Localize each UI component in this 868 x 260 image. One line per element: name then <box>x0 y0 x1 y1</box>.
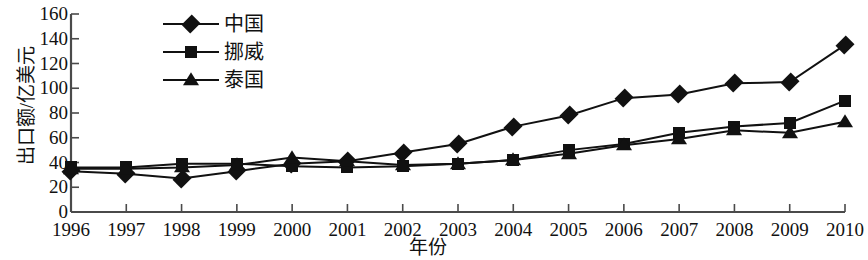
data-point-triangle <box>505 152 521 165</box>
legend-item: 挪威 <box>163 38 313 66</box>
data-point-triangle <box>671 131 687 144</box>
legend-label: 挪威 <box>219 42 264 62</box>
data-point-triangle <box>726 123 742 136</box>
data-point-triangle <box>616 137 632 150</box>
legend-label: 泰国 <box>219 70 264 90</box>
data-point-triangle <box>395 157 411 170</box>
data-point-triangle <box>118 161 134 174</box>
data-point-square <box>839 95 851 107</box>
legend-marker-square-icon <box>185 46 197 58</box>
legend-label: 中国 <box>219 14 264 34</box>
data-point-triangle <box>284 150 300 163</box>
legend-swatch-diamond-icon <box>163 14 219 34</box>
data-point-triangle <box>837 114 853 127</box>
x-axis-title: 年份 <box>0 238 856 258</box>
data-point-triangle <box>782 125 798 138</box>
data-point-triangle <box>174 160 190 173</box>
legend-swatch-square-icon <box>163 42 219 62</box>
legend: 中国挪威泰国 <box>163 10 313 94</box>
legend-item: 中国 <box>163 10 313 38</box>
data-point-triangle <box>229 157 245 170</box>
data-point-triangle <box>561 146 577 159</box>
data-point-triangle <box>339 153 355 166</box>
legend-marker-diamond-icon <box>181 14 200 33</box>
legend-swatch-triangle-icon <box>163 70 219 90</box>
data-point-triangle <box>450 156 466 169</box>
data-point-triangle <box>63 161 79 174</box>
legend-marker-triangle-icon <box>183 72 199 85</box>
legend-item: 泰国 <box>163 66 313 94</box>
